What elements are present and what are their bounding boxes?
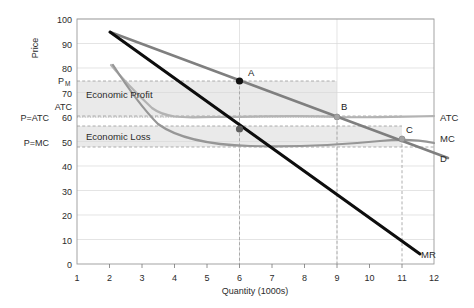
- x-tick-4: 4: [172, 273, 177, 283]
- x-axis-title: Quantity (1000s): [222, 286, 289, 296]
- x-tick-9: 9: [334, 273, 339, 283]
- x-tick-8: 8: [302, 273, 307, 283]
- y-tick-10: 10: [62, 236, 72, 246]
- x-tick-12: 12: [429, 273, 439, 283]
- label-p-equals-mc: P=MC: [24, 138, 50, 148]
- marker-point-a[interactable]: [236, 77, 243, 84]
- marker-point-mr-mc[interactable]: [236, 125, 243, 132]
- point-label-b: B: [341, 101, 347, 112]
- economics-chart: A B C ATC MC D MR Economic Profit Econom…: [0, 0, 474, 308]
- annotation-economic-profit: Economic Profit: [86, 89, 153, 100]
- y-tick-100: 100: [57, 15, 72, 25]
- point-label-a: A: [248, 67, 255, 78]
- x-tick-10: 10: [364, 273, 374, 283]
- marker-point-c[interactable]: [399, 136, 405, 142]
- x-axis-ticks: [110, 264, 403, 268]
- curve-label-d: D: [440, 153, 447, 164]
- x-tick-11: 11: [397, 273, 406, 283]
- y-tick-90: 90: [62, 40, 72, 50]
- chart-canvas: A B C ATC MC D MR Economic Profit Econom…: [0, 0, 474, 308]
- y-axis-title: Price: [30, 38, 40, 59]
- curve-label-mr: MR: [421, 249, 436, 260]
- y-tick-20: 20: [62, 211, 72, 221]
- y-tick-0: 0: [67, 260, 72, 270]
- curve-label-atc: ATC: [440, 112, 458, 123]
- y-tick-30: 30: [62, 187, 72, 197]
- curve-label-mc: MC: [440, 133, 455, 144]
- x-tick-5: 5: [204, 273, 209, 283]
- y-tick-40: 40: [62, 162, 72, 172]
- x-axis-tick-labels: 1 2 3 4 5 6 7 8 9 10 11 12: [74, 273, 439, 283]
- label-atc-axis: ATC: [55, 102, 73, 112]
- y-tick-50: 50: [62, 138, 72, 148]
- point-label-c: C: [406, 124, 413, 135]
- label-pm: P: [58, 76, 64, 86]
- label-p-equals-atc: P=ATC: [20, 113, 49, 123]
- annotation-economic-loss: Economic Loss: [86, 131, 151, 142]
- label-pm-subscript: M: [65, 80, 70, 87]
- x-tick-3: 3: [139, 273, 144, 283]
- marker-point-b[interactable]: [334, 114, 340, 120]
- x-tick-2: 2: [107, 273, 112, 283]
- x-tick-6: 6: [237, 273, 242, 283]
- y-tick-80: 80: [62, 64, 72, 74]
- x-tick-7: 7: [269, 273, 274, 283]
- x-tick-1: 1: [74, 273, 79, 283]
- y-tick-60: 60: [62, 113, 72, 123]
- y-axis-tick-labels: 100 90 80 70 60 50 40 30 20 10 0: [57, 15, 72, 270]
- y-tick-70: 70: [62, 89, 72, 99]
